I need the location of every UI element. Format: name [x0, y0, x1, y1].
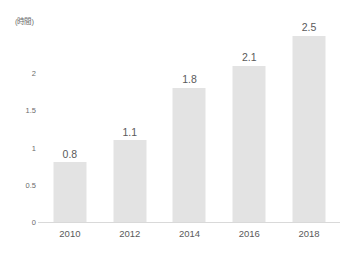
bar-2012[interactable]	[113, 140, 146, 222]
x-tick-label-2010: 2010	[40, 228, 100, 239]
x-tick-label-2016: 2016	[219, 228, 279, 239]
bar-2010[interactable]	[53, 162, 86, 222]
bar-slot-2010: 0.8	[40, 0, 100, 222]
x-tick-label-2014: 2014	[160, 228, 220, 239]
bar-value-2010: 0.8	[63, 148, 78, 160]
bar-slot-2012: 1.1	[100, 0, 160, 222]
y-tick-label-1: 0.5	[10, 180, 36, 189]
bar-value-2016: 2.1	[242, 51, 257, 63]
bar-value-2018: 2.5	[302, 21, 317, 33]
bar-2014[interactable]	[173, 88, 206, 222]
bar-slot-2018: 2.5	[279, 0, 339, 222]
x-axis-line	[38, 222, 340, 223]
bar-slot-2014: 1.8	[160, 0, 220, 222]
y-tick-label-0: 0	[10, 218, 36, 227]
bar-group: 0.8 1.1 1.8 2.1 2.5	[40, 0, 339, 222]
bar-2016[interactable]	[233, 66, 266, 223]
x-tick-label-2018: 2018	[279, 228, 339, 239]
bar-chart: (時間) 0 0.5 1 1.5 2 0.8 1.1 1.8	[0, 0, 349, 259]
bar-value-2014: 1.8	[182, 73, 197, 85]
y-tick-label-4: 2	[10, 69, 36, 78]
x-tick-label-2012: 2012	[100, 228, 160, 239]
y-tick-label-3: 1.5	[10, 106, 36, 115]
bar-2018[interactable]	[293, 36, 326, 222]
plot-area: 0 0.5 1 1.5 2 0.8 1.1 1.8 2.1	[0, 0, 349, 259]
bar-value-2012: 1.1	[122, 126, 137, 138]
y-tick-label-2: 1	[10, 143, 36, 152]
bar-slot-2016: 2.1	[219, 0, 279, 222]
